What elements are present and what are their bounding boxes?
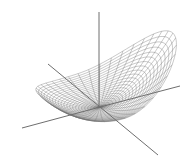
axes-back <box>48 12 180 107</box>
axes-front <box>22 107 158 155</box>
wireframe-mesh <box>36 31 177 122</box>
surface-mesh-lines <box>36 31 177 122</box>
surface-plot <box>0 0 192 164</box>
